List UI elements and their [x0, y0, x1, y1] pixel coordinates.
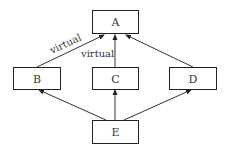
edge-label-c-to-a: virtual — [80, 48, 114, 59]
node-b: B — [14, 68, 61, 90]
edge-label-b-to-a: virtual — [47, 32, 83, 56]
node-d-label: D — [189, 73, 198, 86]
edge-e-to-b — [39, 90, 106, 120]
edge-e-to-d — [124, 90, 191, 120]
inheritance-diagram: virtual virtual A B C D E — [0, 0, 229, 157]
edge-d-to-a — [126, 35, 193, 67]
node-e: E — [93, 121, 139, 144]
node-d: D — [170, 68, 217, 90]
node-c-label: C — [111, 73, 119, 86]
node-a: A — [93, 11, 139, 34]
node-e-label: E — [111, 126, 119, 139]
node-a-label: A — [111, 16, 121, 29]
node-c: C — [93, 68, 139, 90]
node-b-label: B — [33, 73, 41, 86]
